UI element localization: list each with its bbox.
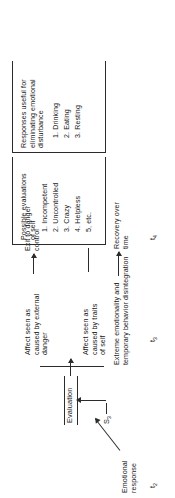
evaluations-column-left-rule [12, 244, 106, 245]
node-evaluation: Evaluation [66, 377, 75, 423]
diagram-canvas: t2 t3 t4 Emotional response S3 Evaluatio… [0, 0, 175, 498]
connector-s3-to-evaluation [106, 403, 107, 414]
evaluations-item-2: 2. Uncontrolled [52, 183, 61, 232]
evaluation-bottom-rule [77, 376, 78, 425]
evaluations-item-1: 1. Incompetent [41, 184, 50, 232]
evaluation-top-rule [64, 376, 65, 425]
node-emotional-response: Emotional response [121, 431, 138, 493]
evaluations-item-5: 5, etc. [85, 212, 94, 232]
evaluations-column-bottom-rule [105, 157, 106, 245]
node-stimulus: S3 [103, 416, 112, 424]
responses-item-3: 3. Resting [74, 105, 83, 138]
node-affect-traits-of-self: Affect seen as caused by traits of self [82, 273, 108, 355]
responses-column-top-rule [12, 61, 13, 153]
connector-traits-to-evaluations [88, 248, 89, 272]
node-affect-external-danger: Affect seen as caused by external danger [24, 273, 50, 355]
responses-column-left-rule [12, 152, 106, 153]
time-marker-t2: t2 [148, 483, 157, 488]
arrow-emotional-response-to-evaluation [93, 420, 118, 452]
evaluations-column-top-rule [12, 157, 13, 245]
figure-rotator: t2 t3 t4 Emotional response S3 Evaluatio… [0, 0, 175, 498]
responses-heading: Responses useful for eliminating emotion… [20, 58, 46, 148]
responses-item-1: 1. Drinking [52, 103, 61, 138]
evaluations-item-4: 4. Helpless [74, 196, 83, 232]
evaluation-branch-rule [40, 366, 104, 367]
responses-item-2: 2. Eating [63, 109, 72, 138]
time-marker-t3: t3 [148, 337, 157, 342]
responses-column-bottom-rule [105, 61, 106, 153]
time-marker-t4: t4 [148, 235, 157, 240]
node-extreme-emotionality: Extreme emotionality and temporary behav… [113, 247, 130, 365]
evaluations-item-3: 3. Crazy [63, 205, 72, 232]
evaluations-heading: Possible evaluations of self [20, 156, 37, 240]
node-recovery-over-time: Recovery over time [113, 187, 130, 249]
